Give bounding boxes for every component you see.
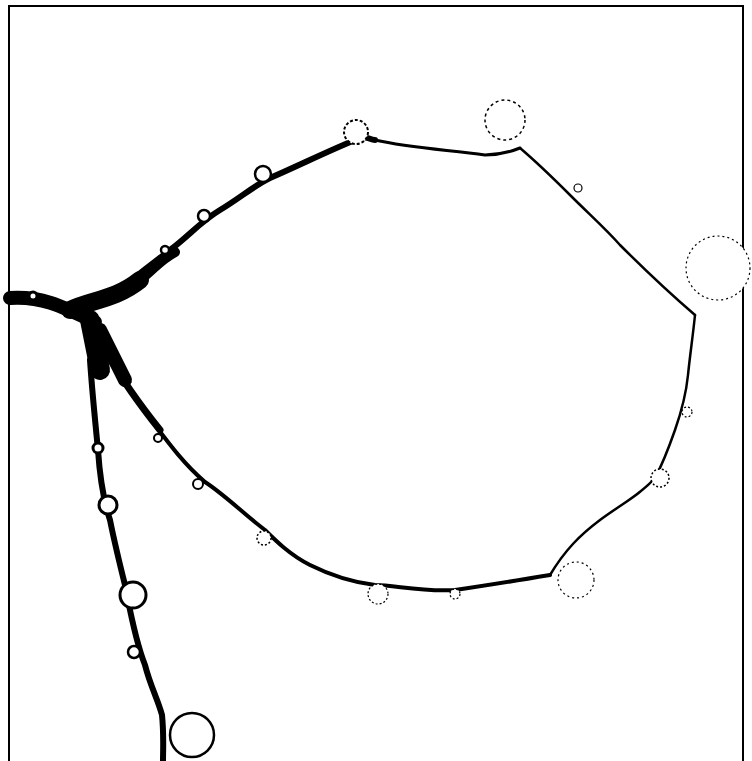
fractal-bulbs <box>29 100 750 757</box>
fractal-svg <box>0 0 752 761</box>
fractal-figure <box>0 0 752 761</box>
fractal-filament <box>10 137 695 761</box>
